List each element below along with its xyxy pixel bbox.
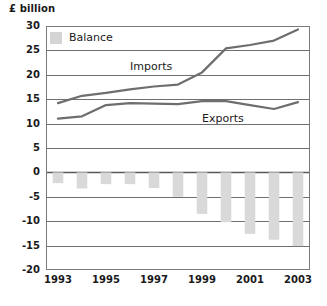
bar-balance [245, 172, 256, 233]
bar-balance [53, 172, 64, 183]
bar-balance [197, 172, 208, 213]
bar-balance [269, 172, 280, 239]
bar-balance [125, 172, 136, 184]
x-axis-tick: 1995 [83, 274, 129, 285]
legend: Balance [50, 31, 113, 44]
line-exports [58, 101, 298, 119]
series-label-exports: Exports [202, 112, 244, 125]
bar-balance [221, 172, 232, 222]
bar-balance [77, 172, 88, 188]
legend-label-balance: Balance [69, 31, 113, 44]
balance-of-trade-chart: £ billion 302520151050-5-10-15-20 199319… [0, 0, 327, 306]
bar-balance [293, 172, 304, 246]
y-axis-tick: -20 [0, 264, 40, 275]
y-axis-tick: 15 [0, 93, 40, 104]
series-label-imports: Imports [130, 60, 172, 73]
y-axis-tick: -15 [0, 240, 40, 251]
x-axis-tick: 1997 [131, 274, 177, 285]
y-axis-tick: 0 [0, 166, 40, 177]
y-axis-tick: 20 [0, 69, 40, 80]
bar-balance [101, 172, 112, 184]
y-axis-tick: 10 [0, 118, 40, 129]
plot-svg [46, 26, 310, 270]
y-axis-tick: 25 [0, 44, 40, 55]
bar-balance [149, 172, 160, 188]
x-axis-tick: 2001 [227, 274, 273, 285]
x-axis-tick: 1999 [179, 274, 225, 285]
y-axis-tick: 30 [0, 20, 40, 31]
balance-bars [53, 172, 304, 246]
plot-area [46, 26, 310, 270]
unit-label: £ billion [9, 3, 55, 14]
y-axis-tick: -10 [0, 215, 40, 226]
y-axis-tick: 5 [0, 142, 40, 153]
x-axis-tick: 1993 [35, 274, 81, 285]
x-axis-tick: 2003 [275, 274, 321, 285]
legend-swatch-balance [50, 32, 62, 44]
y-axis-tick: -5 [0, 191, 40, 202]
bar-balance [173, 172, 184, 196]
